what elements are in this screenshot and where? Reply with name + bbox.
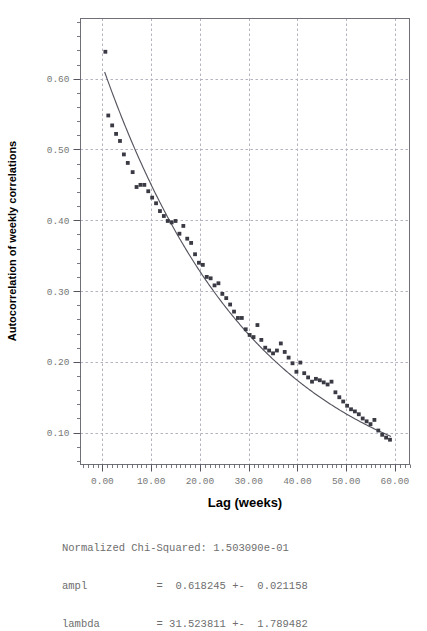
y-axis-tick-marks [74,23,81,462]
x-tick-label: 60.00 [381,476,410,487]
data-point [373,418,377,422]
data-point [291,361,295,365]
data-point [283,350,287,354]
data-point [146,189,150,193]
data-point [256,323,260,327]
data-point [337,395,341,399]
y-tick-label: 0.50 [47,145,70,156]
data-point [135,185,139,189]
y-axis-tick-labels: 0.100.200.300.400.500.60 [47,74,70,439]
data-point [122,153,126,157]
data-point [341,400,345,404]
data-point [240,316,244,320]
data-point [298,361,302,365]
x-tick-label: 50.00 [332,476,361,487]
data-point [150,196,154,200]
data-point [345,404,349,408]
data-point [118,139,122,143]
data-point [170,220,174,224]
data-point [154,201,158,205]
data-point [114,132,118,136]
horizontal-gridlines [81,80,410,434]
y-tick-label: 0.20 [47,357,70,368]
data-point [126,161,130,165]
data-point [330,380,334,384]
data-point [252,335,256,339]
x-axis-title: Lag (weeks) [208,495,282,510]
data-point [357,412,361,416]
data-point [295,370,299,374]
data-point [314,377,318,381]
data-point [174,219,178,223]
data-point [310,380,314,384]
data-point [334,390,338,394]
data-point [302,371,306,375]
exponential-fit-curve [105,72,391,437]
vertical-gridlines [103,19,396,465]
data-point [201,263,205,267]
data-point [197,261,201,265]
data-point [326,383,330,387]
data-point [244,327,248,331]
data-point [259,338,263,342]
fit-chi-squared-line: Normalized Chi-Squared: 1.503090e-01 [62,542,308,555]
data-point [384,436,388,440]
data-point [232,310,236,314]
data-point [279,342,283,346]
data-point [271,351,275,355]
data-point [376,429,380,433]
y-tick-label: 0.30 [47,287,70,298]
y-tick-label: 0.40 [47,216,70,227]
data-point [306,376,310,380]
data-point [209,276,213,280]
x-axis-tick-marks [84,465,411,472]
data-point [189,241,193,245]
data-point [220,292,224,296]
data-point [318,378,322,382]
data-point [322,380,326,384]
data-point [213,283,217,287]
data-point [103,50,107,54]
data-point [205,275,209,279]
fit-lambda-line: lambda = 31.523811 +- 1.789482 [62,618,308,631]
data-point [353,410,357,414]
x-tick-label: 20.00 [186,476,215,487]
fit-results-block: Normalized Chi-Squared: 1.503090e-01 amp… [62,517,308,631]
scatter-data-points [103,50,391,442]
data-point [217,281,221,285]
data-point [181,224,185,228]
data-point [287,356,291,360]
x-tick-label: 10.00 [137,476,166,487]
fit-ampl-line: ampl = 0.618245 +- 0.021158 [62,580,308,593]
y-tick-label: 0.60 [47,74,70,85]
data-point [158,209,162,213]
plot-frame [81,19,410,465]
data-point [388,438,392,442]
data-point [106,114,110,118]
data-point [193,252,197,256]
data-point [162,214,166,218]
data-point [263,346,267,350]
x-tick-label: 0.00 [91,476,114,487]
data-point [139,183,143,187]
data-point [142,183,146,187]
x-axis-tick-labels: 0.0010.0020.0030.0040.0050.0060.00 [91,476,409,487]
data-point [228,303,232,307]
data-point [365,419,369,423]
x-tick-label: 40.00 [283,476,312,487]
data-point [275,349,279,353]
data-point [380,433,384,437]
y-axis-title: Autocorrelation of weekly correlations [6,141,18,342]
data-point [369,422,373,426]
data-point [110,124,114,128]
y-tick-label: 0.10 [47,428,70,439]
x-tick-label: 30.00 [234,476,263,487]
data-point [349,407,353,411]
data-point [166,219,170,223]
data-point [361,417,365,421]
data-point [185,237,189,241]
data-point [248,333,252,337]
data-point [178,232,182,236]
